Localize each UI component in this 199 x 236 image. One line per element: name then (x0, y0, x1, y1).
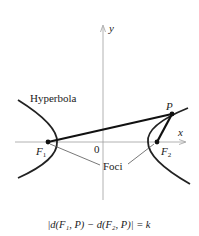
origin-label: 0 (94, 143, 100, 155)
focus2-label: F2 (160, 145, 172, 159)
hyperbola-diagram: y x 0 Hyperbola Foci F1 F2 P |d(F₁, P) −… (0, 0, 199, 236)
x-axis-label: x (177, 126, 183, 138)
segment-f2-p (157, 114, 172, 142)
foci-label: Foci (103, 160, 123, 172)
focus2-point (155, 140, 160, 145)
focus1-label: F1 (35, 145, 47, 159)
hyperbola-left-branch (18, 100, 57, 178)
y-axis-label: y (108, 22, 114, 34)
foci-leader-right (128, 144, 154, 164)
point-p (170, 112, 175, 117)
hyperbola-label: Hyperbola (30, 92, 77, 104)
point-p-label: P (165, 100, 173, 112)
y-axis (101, 25, 106, 200)
x-axis (15, 140, 186, 145)
foci-leader-left (50, 144, 100, 165)
difference-formula: |d(F₁, P) − d(F₂, P)| = k (47, 219, 150, 231)
focus1-point (46, 140, 51, 145)
